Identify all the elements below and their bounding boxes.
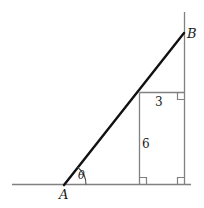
right-angle-mark-bottom-left bbox=[140, 178, 147, 185]
figure-canvas bbox=[0, 0, 204, 208]
right-angle-mark-bottom-right bbox=[178, 178, 185, 185]
vertex-label-a: A bbox=[59, 188, 68, 201]
length-label-3: 3 bbox=[155, 96, 163, 108]
length-label-6: 6 bbox=[142, 138, 150, 150]
angle-label-theta: θ bbox=[78, 170, 85, 181]
hypotenuse-segment-ab bbox=[64, 33, 184, 185]
right-angle-mark-upper-right bbox=[178, 93, 185, 100]
vertex-label-b: B bbox=[187, 27, 197, 40]
geometry-figure: A B θ 3 6 bbox=[0, 0, 204, 208]
